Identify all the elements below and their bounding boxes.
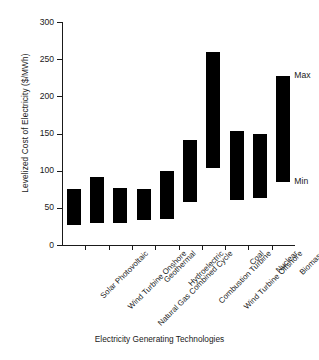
y-tick-300: 300 bbox=[57, 22, 62, 23]
y-tick-250: 250 bbox=[57, 59, 62, 60]
bar-natural-gas-combined-cycle bbox=[113, 188, 127, 224]
annotation-max: Max bbox=[294, 70, 310, 80]
y-tick-label: 100 bbox=[40, 164, 54, 176]
bar-nuclear bbox=[253, 134, 267, 199]
y-tick-150: 150 bbox=[57, 134, 62, 135]
bar-wind-turbine-offshore bbox=[206, 52, 220, 168]
annotation-min: Min bbox=[294, 176, 308, 186]
y-tick-100: 100 bbox=[57, 171, 62, 172]
y-tick-200: 200 bbox=[57, 96, 62, 97]
y-tick-label: 150 bbox=[40, 127, 54, 139]
y-tick-label: 50 bbox=[44, 201, 54, 213]
plot-area: 050100150200250300 MaxMin bbox=[62, 22, 295, 245]
bar-combustion-turbine bbox=[183, 140, 197, 202]
y-tick-label: 300 bbox=[40, 16, 54, 28]
y-tick-label: 250 bbox=[40, 53, 54, 65]
y-axis-line bbox=[62, 22, 63, 245]
y-axis-title: Levelized Cost of Electricity ($/MWh) bbox=[20, 13, 30, 233]
bar-hydroelectric bbox=[160, 171, 174, 219]
bar-geothermal bbox=[137, 189, 151, 219]
y-tick-0: 0 bbox=[57, 245, 62, 246]
y-tick-label: 200 bbox=[40, 90, 54, 102]
bar-biomass bbox=[276, 76, 290, 182]
x-axis-category-labels: Solar PhotovoltaicWind Turbine OnshoreNa… bbox=[62, 249, 295, 329]
bar-wind-turbine-onshore bbox=[90, 177, 104, 224]
y-tick-50: 50 bbox=[57, 208, 62, 209]
x-axis-title: Electricity Generating Technologies bbox=[0, 334, 319, 344]
bar-solar-photovoltaic bbox=[67, 189, 81, 225]
y-tick-label: 0 bbox=[49, 239, 54, 251]
x-category-label-natural-gas-combined-cycle: Natural Gas Combined Cycle bbox=[156, 249, 235, 328]
bar-coal bbox=[230, 131, 244, 200]
chart-container: Levelized Cost of Electricity ($/MWh) 05… bbox=[0, 0, 319, 360]
